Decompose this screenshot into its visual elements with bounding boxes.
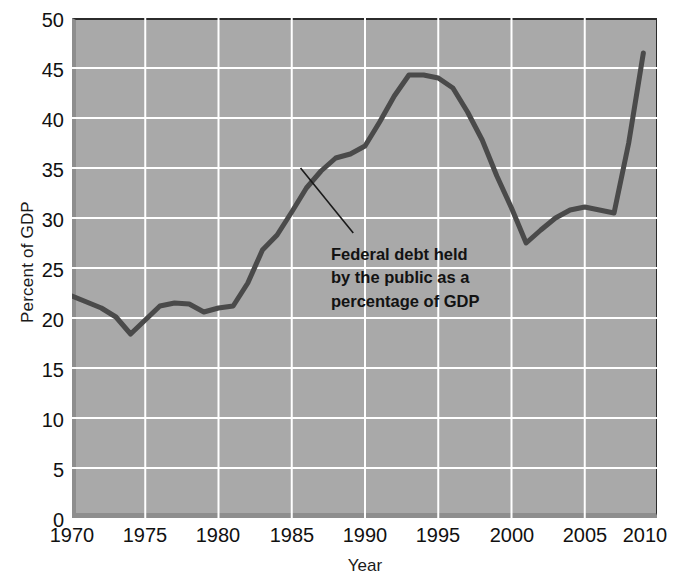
callout-line-3: percentage of GDP <box>331 290 546 313</box>
x-tick-1985: 1985 <box>252 525 332 545</box>
x-axis-label: Year <box>72 556 658 576</box>
x-tick-1975: 1975 <box>105 525 185 545</box>
x-tick-1970: 1970 <box>32 525 112 545</box>
y-tick-15: 15 <box>20 360 64 380</box>
x-tick-1990: 1990 <box>325 525 405 545</box>
y-tick-30: 30 <box>20 210 64 230</box>
y-tick-5: 5 <box>20 460 64 480</box>
x-tick-1980: 1980 <box>178 525 258 545</box>
annotation-leader-line <box>301 168 354 233</box>
x-tick-2000: 2000 <box>472 525 552 545</box>
y-axis-tick-labels: 50 45 40 35 30 25 20 15 10 5 0 <box>14 0 64 583</box>
y-tick-50: 50 <box>20 10 64 30</box>
y-tick-40: 40 <box>20 110 64 130</box>
y-tick-10: 10 <box>20 410 64 430</box>
x-tick-2010: 2010 <box>605 525 680 545</box>
x-tick-1995: 1995 <box>398 525 478 545</box>
y-tick-20: 20 <box>20 310 64 330</box>
y-tick-35: 35 <box>20 160 64 180</box>
series-callout-annotation: Federal debt held by the public as a per… <box>331 243 546 313</box>
callout-line-1: Federal debt held <box>331 243 546 266</box>
chart-figure: Percent of GDP 50 45 40 35 30 25 20 15 1… <box>0 0 680 583</box>
y-tick-25: 25 <box>20 260 64 280</box>
y-tick-45: 45 <box>20 60 64 80</box>
callout-line-2: by the public as a <box>331 266 546 289</box>
